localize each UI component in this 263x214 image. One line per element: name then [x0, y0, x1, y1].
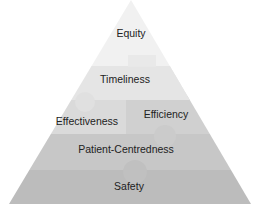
label-timeliness: Timeliness [100, 73, 150, 85]
label-equity: Equity [116, 27, 146, 39]
label-patient-centredness: Patient-Centredness [78, 143, 174, 155]
puzzle-tab [75, 92, 95, 112]
puzzle-tab [128, 55, 156, 66]
label-effectiveness: Effectiveness [56, 115, 118, 127]
label-efficiency: Efficiency [144, 108, 189, 120]
label-safety: Safety [114, 180, 145, 192]
quality-pyramid: Equity Timeliness Effectiveness Efficien… [0, 0, 263, 214]
